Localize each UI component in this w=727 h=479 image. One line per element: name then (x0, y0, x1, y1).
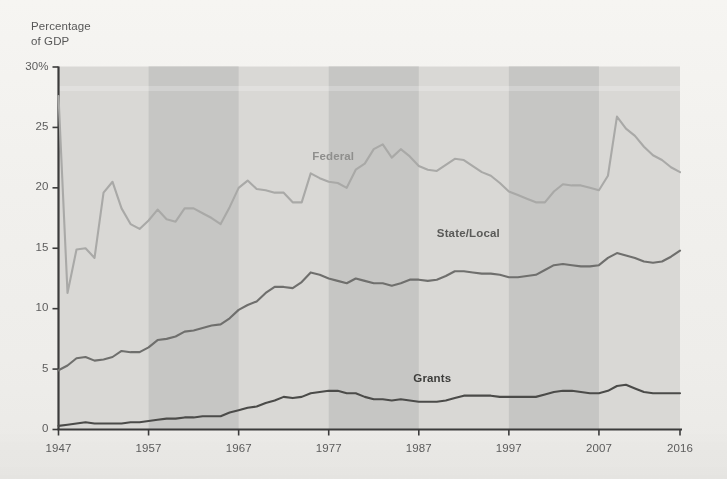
y-axis-tick-label: 5 (0, 362, 49, 374)
y-axis-tick-label: 10 (0, 301, 49, 313)
series-label-grants: Grants (413, 372, 451, 384)
shaded-bands (149, 67, 599, 430)
chart-page: Percentage of GDP 30%2520151050194719571… (0, 0, 727, 479)
shaded-band (509, 67, 599, 430)
y-axis-tick-label: 0 (0, 422, 49, 434)
x-axis-tick-label: 2007 (569, 442, 629, 454)
x-axis-tick-label: 2016 (650, 442, 710, 454)
x-axis-tick-label: 1967 (209, 442, 269, 454)
x-axis-tick-label: 1947 (29, 442, 89, 454)
line-chart (0, 0, 727, 479)
shaded-band (329, 67, 419, 430)
x-axis-tick-label: 1957 (119, 442, 179, 454)
x-axis-tick-label: 1997 (479, 442, 539, 454)
y-axis-tick-label: 15 (0, 241, 49, 253)
scan-streak (59, 86, 681, 91)
y-axis-tick-label: 25 (0, 120, 49, 132)
y-axis-tick-label: 20 (0, 180, 49, 192)
series-label-state-local: State/Local (437, 227, 500, 239)
shaded-band (149, 67, 239, 430)
y-axis-tick-label: 30% (0, 60, 49, 72)
x-axis-tick-label: 1977 (299, 442, 359, 454)
series-label-federal: Federal (312, 150, 354, 162)
x-axis-tick-label: 1987 (389, 442, 449, 454)
